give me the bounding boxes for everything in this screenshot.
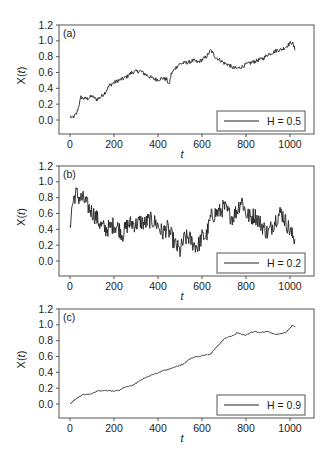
y-tick-label: 1.2: [38, 303, 53, 315]
chart-canvas: 0.00.20.40.60.81.01.202004006008001000tX…: [0, 0, 331, 461]
legend: H = 0.5: [217, 111, 305, 131]
y-tick-label: 0.4: [38, 82, 53, 94]
y-tick-label: 0.6: [38, 66, 53, 78]
y-tick-label: 0.2: [38, 382, 53, 394]
x-tick-label: 0: [67, 280, 73, 292]
legend: H = 0.9: [217, 395, 305, 415]
x-tick-label: 800: [237, 422, 255, 434]
y-tick-label: 0.4: [38, 223, 53, 235]
y-tick-label: 0.8: [38, 191, 53, 203]
data-series-line: [70, 325, 295, 404]
y-tick-label: 0.2: [38, 239, 53, 251]
data-series-line: [70, 42, 295, 119]
y-tick-label: 1.2: [38, 19, 53, 31]
x-tick-label: 600: [193, 422, 211, 434]
x-tick-label: 0: [67, 138, 73, 150]
x-tick-label: 800: [237, 138, 255, 150]
panel-b: 0.00.20.40.60.81.01.202004006008001000tX…: [15, 160, 314, 303]
y-tick-label: 0.0: [38, 398, 53, 410]
y-tick-label: 0.0: [38, 114, 53, 126]
x-tick-label: 1000: [278, 422, 302, 434]
y-tick-label: 0.8: [38, 50, 53, 62]
x-tick-label: 400: [149, 138, 167, 150]
x-tick-label: 1000: [278, 280, 302, 292]
y-tick-label: 0.0: [38, 255, 53, 267]
legend-label: H = 0.2: [267, 257, 301, 269]
panel-label: (b): [63, 168, 76, 180]
figure: 0.00.20.40.60.81.01.202004006008001000tX…: [0, 0, 331, 461]
legend-label: H = 0.5: [267, 115, 301, 127]
y-axis-label: X(t): [15, 67, 27, 85]
panel-c: 0.00.20.40.60.81.01.202004006008001000tX…: [15, 303, 314, 445]
panel-label: (c): [63, 311, 75, 323]
legend-label: H = 0.9: [267, 399, 301, 411]
y-tick-label: 0.4: [38, 366, 53, 378]
y-tick-label: 1.0: [38, 34, 53, 46]
x-axis-label: t: [180, 432, 184, 444]
legend: H = 0.2: [217, 253, 305, 273]
y-tick-label: 1.2: [38, 160, 53, 172]
x-tick-label: 0: [67, 422, 73, 434]
y-tick-label: 0.6: [38, 350, 53, 362]
y-axis-label: X(t): [15, 351, 27, 369]
x-tick-label: 200: [105, 138, 123, 150]
panel-a: 0.00.20.40.60.81.01.202004006008001000tX…: [15, 19, 314, 161]
data-series-line: [70, 188, 295, 257]
x-tick-label: 1000: [278, 138, 302, 150]
y-tick-label: 1.0: [38, 318, 53, 330]
y-axis-label: X(t): [15, 208, 27, 226]
x-tick-label: 200: [105, 280, 123, 292]
y-tick-label: 1.0: [38, 175, 53, 187]
x-tick-label: 600: [193, 138, 211, 150]
x-tick-label: 600: [193, 280, 211, 292]
x-tick-label: 800: [237, 280, 255, 292]
x-tick-label: 400: [149, 422, 167, 434]
y-tick-label: 0.2: [38, 98, 53, 110]
x-tick-label: 200: [105, 422, 123, 434]
x-tick-label: 400: [149, 280, 167, 292]
panel-label: (a): [63, 27, 76, 39]
y-tick-label: 0.6: [38, 207, 53, 219]
x-axis-label: t: [180, 290, 184, 302]
y-tick-label: 0.8: [38, 334, 53, 346]
x-axis-label: t: [180, 148, 184, 160]
